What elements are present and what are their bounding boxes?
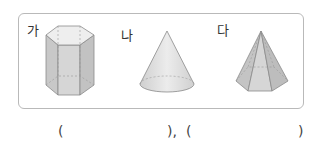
figure-label-ga: 가 <box>27 24 39 37</box>
answer-blank-2[interactable] <box>194 118 294 140</box>
figure-label-na: 나 <box>121 29 133 42</box>
hexagonal-prism-icon <box>44 23 100 99</box>
answer-close-paren-1: ), <box>167 124 177 138</box>
answer-open-paren-1: ( <box>58 124 63 138</box>
figure-label-da: 다 <box>217 24 229 37</box>
answer-close-paren-2: ) <box>298 124 303 138</box>
answer-blank-1[interactable] <box>66 118 164 140</box>
hexagonal-pyramid-icon <box>234 29 290 95</box>
answer-open-paren-2: ( <box>186 124 191 138</box>
cone-icon <box>137 29 197 95</box>
